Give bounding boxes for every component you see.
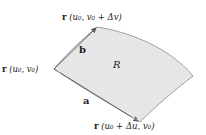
point-bottom-args: (u₀ + Δu, v₀) (101, 121, 154, 131)
vector-b-label: b (79, 45, 86, 55)
function-r: r (2, 64, 6, 74)
surface-patch (54, 27, 193, 122)
point-bottom-label: r (u₀ + Δu, v₀) (94, 122, 154, 131)
point-top-args: (u₀, v₀ + Δv) (69, 12, 122, 22)
point-top-label: r (u₀, v₀ + Δv) (62, 13, 122, 22)
point-origin-args: (u₀, v₀) (9, 64, 38, 74)
function-r: r (62, 12, 66, 22)
function-r: r (94, 121, 98, 131)
vector-a-label: a (83, 96, 89, 106)
point-origin-label: r (u₀, v₀) (2, 65, 38, 74)
parametric-surface-diagram: r (u₀, v₀ + Δv) r (u₀, v₀) r (u₀ + Δu, v… (0, 0, 206, 135)
region-label: R (113, 60, 121, 70)
